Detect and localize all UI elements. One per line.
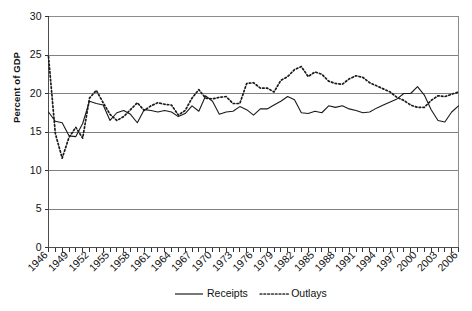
x-tick-label: 1946 — [25, 248, 50, 273]
y-tick-label: 20 — [30, 87, 42, 99]
y-tick-label: 15 — [30, 125, 42, 137]
x-tick-label: 1988 — [312, 248, 337, 273]
data-series-group — [49, 57, 459, 159]
y-axis-ticks-group: 051015202530 — [30, 10, 49, 253]
x-axis-ticks-group — [49, 248, 459, 252]
y-tick-label: 30 — [30, 10, 42, 22]
x-tick-label: 1961 — [127, 248, 152, 273]
x-tick-label: 2003 — [414, 248, 439, 273]
legend-label-receipts: Receipts — [207, 287, 248, 299]
x-tick-label: 1997 — [373, 248, 398, 273]
series-line-outlays — [49, 57, 459, 159]
y-tick-label: 5 — [36, 202, 42, 214]
chart-container: Percent of GDP 051015202530 194619491952… — [0, 0, 472, 311]
x-tick-label: 1949 — [45, 248, 70, 273]
x-tick-label: 1976 — [230, 248, 255, 273]
x-tick-label: 1994 — [353, 248, 378, 273]
x-tick-label: 1991 — [332, 248, 357, 273]
x-tick-label: 2006 — [435, 248, 460, 273]
x-tick-label: 1952 — [66, 248, 91, 273]
x-tick-label: 1973 — [209, 248, 234, 273]
x-tick-label: 1955 — [86, 248, 111, 273]
x-tick-label: 1979 — [250, 248, 275, 273]
x-tick-label: 1970 — [189, 248, 214, 273]
x-tick-label: 1982 — [271, 248, 296, 273]
gridlines-group — [49, 17, 459, 210]
series-line-receipts — [49, 87, 459, 137]
x-tick-label: 2000 — [394, 248, 419, 273]
legend-label-outlays: Outlays — [291, 287, 327, 299]
chart-legend: ReceiptsOutlays — [175, 287, 327, 299]
x-tick-label: 1964 — [148, 248, 173, 273]
y-tick-label: 10 — [30, 164, 42, 176]
x-tick-label: 1985 — [291, 248, 316, 273]
y-tick-label: 25 — [30, 48, 42, 60]
x-axis-labels-group: 1946194919521955195819611964196719701973… — [25, 248, 460, 273]
chart-plot: 051015202530 194619491952195519581961196… — [0, 0, 472, 311]
x-tick-label: 1958 — [107, 248, 132, 273]
x-tick-label: 1967 — [168, 248, 193, 273]
